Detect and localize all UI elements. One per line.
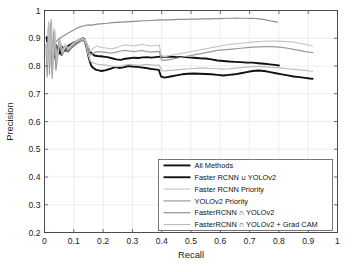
precision-recall-figure: 00.10.20.30.40.50.60.70.80.910.20.30.40.… bbox=[0, 0, 353, 272]
x-tick-label: 0.7 bbox=[244, 236, 256, 246]
legend-label-3: YOLOv2 Priority bbox=[195, 197, 249, 206]
y-tick-label: 1 bbox=[36, 6, 41, 16]
legend-label-4: FasterRCNN ∩ YOLOv2 bbox=[195, 208, 275, 217]
x-tick-label: 0.8 bbox=[273, 236, 285, 246]
y-tick-label: 0.2 bbox=[29, 228, 41, 238]
legend-label-1: Faster RCNN ∪ YOLOv2 bbox=[195, 173, 277, 182]
x-axis-title: Recall bbox=[178, 249, 204, 260]
x-tick-label: 0 bbox=[42, 236, 47, 246]
y-tick-label: 0.9 bbox=[29, 33, 41, 43]
precision-recall-chart: 00.10.20.30.40.50.60.70.80.910.20.30.40.… bbox=[0, 0, 353, 272]
x-tick-label: 0.2 bbox=[97, 236, 109, 246]
y-tick-label: 0.3 bbox=[29, 200, 41, 210]
y-tick-label: 0.4 bbox=[29, 172, 41, 182]
y-axis-title: Precision bbox=[4, 102, 15, 141]
legend-label-5: FasterRCNN ∩ YOLOv2 + Grad CAM bbox=[195, 220, 318, 229]
y-tick-label: 0.7 bbox=[29, 89, 41, 99]
y-tick-label: 0.6 bbox=[29, 117, 41, 127]
x-tick-label: 0.5 bbox=[185, 236, 197, 246]
legend-label-2: Faster RCNN Priority bbox=[195, 185, 265, 194]
x-tick-label: 0.9 bbox=[302, 236, 314, 246]
x-tick-label: 0.6 bbox=[214, 236, 226, 246]
x-tick-label: 0.1 bbox=[68, 236, 80, 246]
cropped-caption bbox=[0, 263, 353, 272]
x-tick-label: 0.4 bbox=[156, 236, 168, 246]
legend-label-0: All Methods bbox=[195, 161, 234, 170]
x-tick-label: 1 bbox=[335, 236, 340, 246]
legend: All MethodsFaster RCNN ∪ YOLOv2Faster RC… bbox=[159, 160, 333, 231]
y-tick-label: 0.8 bbox=[29, 61, 41, 71]
x-tick-label: 0.3 bbox=[126, 236, 138, 246]
y-tick-label: 0.5 bbox=[29, 144, 41, 154]
